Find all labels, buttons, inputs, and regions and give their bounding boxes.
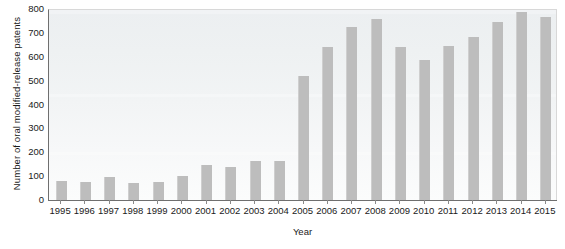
y-axis-tick-labels: 0100200300400500600700800 [16, 0, 44, 249]
x-axis-title: Year [48, 226, 557, 237]
bar [128, 183, 139, 200]
bar [104, 177, 115, 200]
y-axis-tick-label: 400 [16, 100, 44, 110]
y-axis-tick-label: 500 [16, 76, 44, 86]
bar [395, 47, 406, 200]
y-axis-tick-label: 300 [16, 124, 44, 134]
y-axis-tick-label: 0 [16, 195, 44, 205]
y-axis-tick-label: 800 [16, 4, 44, 14]
bar [346, 27, 357, 200]
y-axis-tick-label: 600 [16, 52, 44, 62]
bar [201, 165, 212, 200]
bar-series [49, 10, 556, 200]
bar [153, 182, 164, 200]
bar [322, 47, 333, 200]
bar [540, 17, 551, 200]
y-axis-tick-label: 200 [16, 148, 44, 158]
bar [250, 161, 261, 200]
bar [443, 46, 454, 200]
bar [492, 22, 503, 200]
bar [177, 176, 188, 200]
bar [56, 181, 67, 200]
bar [225, 167, 236, 200]
bar-chart: Number of oral modified-release patents … [0, 0, 565, 249]
plot-area [48, 9, 557, 200]
bar [468, 37, 479, 200]
x-axis-tick-labels: 1995199619971998199920002001200220032004… [48, 204, 557, 220]
bar [274, 161, 285, 200]
y-axis-tick-label: 100 [16, 171, 44, 181]
x-axis-tick-label: 2015 [528, 204, 562, 218]
bar [516, 12, 527, 200]
bar [419, 60, 430, 200]
bar [371, 19, 382, 200]
bar [80, 182, 91, 200]
y-axis-tick-label: 700 [16, 28, 44, 38]
bar [298, 76, 309, 200]
